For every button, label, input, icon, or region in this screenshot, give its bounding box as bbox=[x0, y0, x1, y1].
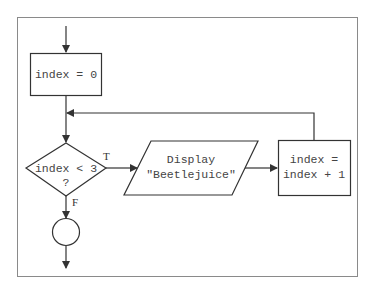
connector-circle bbox=[53, 219, 80, 246]
display-io-parallelogram: Display "Beetlejuice" bbox=[124, 141, 258, 195]
flowchart-canvas: index = 0 index < 3 ? T Display "Beetlej… bbox=[0, 0, 377, 286]
false-label: F bbox=[72, 196, 78, 208]
increment-text-line1: index = bbox=[290, 153, 338, 166]
init-text: index = 0 bbox=[35, 68, 97, 81]
display-text-line1: Display bbox=[167, 153, 215, 166]
init-process-box: index = 0 bbox=[31, 54, 102, 96]
condition-text-line1: index < 3 bbox=[35, 162, 97, 175]
increment-process-box: index = index + 1 bbox=[279, 141, 351, 196]
true-label: T bbox=[103, 150, 110, 162]
condition-text-line2: ? bbox=[63, 176, 70, 189]
loop-back-arrow bbox=[67, 113, 314, 140]
condition-decision-diamond: index < 3 ? bbox=[26, 143, 106, 196]
display-text-line2: "Beetlejuice" bbox=[146, 168, 236, 181]
increment-text-line2: index + 1 bbox=[283, 168, 345, 181]
